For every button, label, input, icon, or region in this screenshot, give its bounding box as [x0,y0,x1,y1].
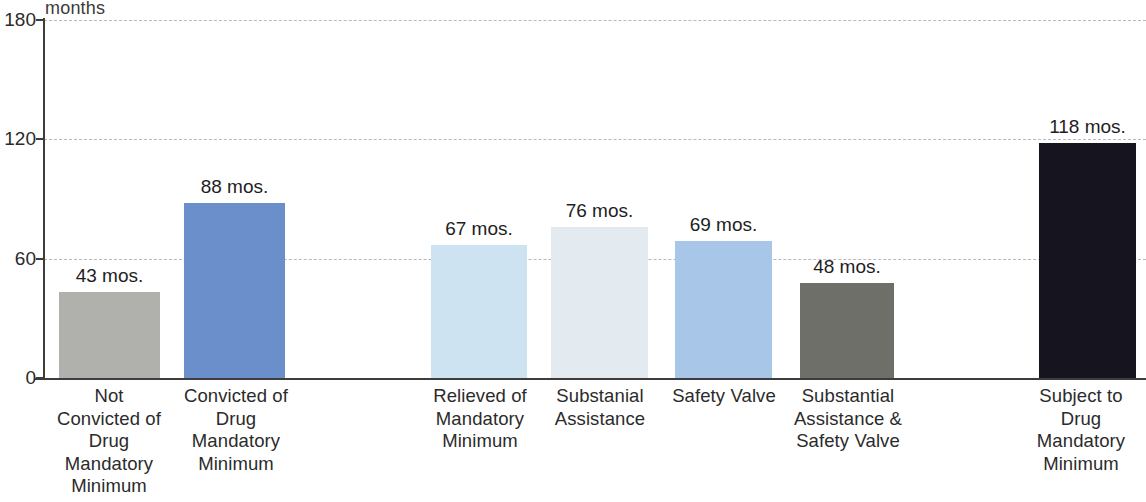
category-label-line: Minimum [38,475,180,498]
y-axis-tick-mark [36,138,45,140]
y-axis-tick-label: 180 [4,9,36,31]
category-label-line: Assistance & [786,408,910,431]
category-label: NotConvicted ofDrugMandatoryMinimum [38,385,180,498]
category-label: Subject toDrugMandatoryMinimum [1016,385,1146,475]
y-axis-tick-mark [36,377,45,379]
bar [551,227,648,378]
bar [675,241,772,378]
category-label-line: Drug [166,408,306,431]
bar [59,292,160,378]
category-label-line: Convicted of [38,408,180,431]
category-label-line: Convicted of [166,385,306,408]
category-label: Relieved ofMandatoryMinimum [412,385,548,453]
category-label-line: Substanial [536,385,664,408]
category-label: SubstantialAssistance &Safety Valve [786,385,910,453]
category-label-line: Minimum [166,453,306,476]
y-axis-unit-label: months [45,0,105,19]
bar-value-label: 76 mos. [566,201,634,220]
gridline [44,20,1146,21]
y-axis-tick-mark [36,258,45,260]
bar [431,245,527,378]
gridline [44,139,1146,140]
category-label-line: Mandatory [38,453,180,476]
category-label: SubstanialAssistance [536,385,664,430]
category-label-line: Mandatory [412,408,548,431]
bar [184,203,285,378]
bar-value-label: 118 mos. [1049,117,1126,136]
bar [1039,143,1136,378]
category-label-line: Not [38,385,180,408]
category-label-line: Mandatory [166,430,306,453]
category-label: Safety Valve [662,385,786,408]
category-label-line: Safety Valve [786,430,910,453]
category-label-line: Minimum [412,430,548,453]
y-axis-tick-label: 60 [15,248,36,270]
y-axis-tick-label: 120 [4,128,36,150]
category-label-line: Safety Valve [662,385,786,408]
x-axis-line [34,378,1146,380]
y-axis-tick-label: 0 [25,367,36,389]
y-axis-line [43,18,45,380]
bar-value-label: 67 mos. [445,219,513,238]
bar-value-label: 48 mos. [813,257,881,276]
bar-value-label: 69 mos. [690,215,758,234]
category-label-line: Mandatory [1016,430,1146,453]
category-label-line: Assistance [536,408,664,431]
y-axis-tick-mark [36,19,45,21]
category-label-line: Drug [38,430,180,453]
category-label-line: Subject to [1016,385,1146,408]
category-label-line: Substantial [786,385,910,408]
bar-value-label: 88 mos. [201,177,269,196]
category-label-line: Drug [1016,408,1146,431]
bar-value-label: 43 mos. [76,266,144,285]
category-label-line: Relieved of [412,385,548,408]
bar [800,283,894,378]
category-label-line: Minimum [1016,453,1146,476]
category-label: Convicted ofDrugMandatoryMinimum [166,385,306,475]
bar-chart: months 180120600 43 mos.88 mos.67 mos.76… [0,0,1146,502]
